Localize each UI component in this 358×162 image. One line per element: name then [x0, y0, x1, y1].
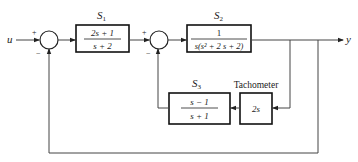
sum1-plus-sign: +	[32, 28, 37, 37]
output-label: y	[345, 33, 351, 45]
s2-denominator: s(s² + 2 s + 2)	[195, 41, 244, 51]
block-diagram: u + − S1 2s + 1 s + 2 + − S2 1 s(s² + 2 …	[0, 0, 358, 162]
summing-junction-1	[40, 31, 58, 49]
s3-denominator: s + 1	[190, 111, 209, 121]
tachometer-transfer: 2s	[252, 104, 261, 114]
s1-label: S1	[97, 9, 107, 23]
s3-numerator: s − 1	[190, 97, 209, 107]
s3-label: S3	[192, 77, 202, 91]
output-to-tachometer-line	[273, 40, 290, 108]
input-label: u	[7, 33, 13, 45]
s2-numerator: 1	[217, 28, 222, 38]
summing-junction-2	[150, 31, 168, 49]
sum2-plus-sign: +	[142, 28, 147, 37]
sum2-minus-sign: −	[146, 49, 151, 58]
tachometer-label: Tachometer	[234, 80, 280, 90]
s1-denominator: s + 2	[93, 41, 112, 51]
sum1-minus-sign: −	[36, 49, 41, 58]
s2-label: S2	[214, 9, 224, 23]
s1-numerator: 2s + 1	[91, 28, 114, 38]
s3-to-sum2-feedback	[158, 49, 169, 108]
